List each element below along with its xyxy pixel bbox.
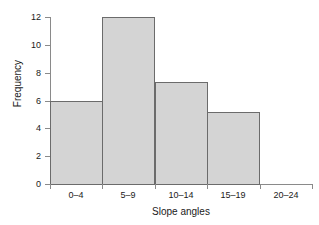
x-tick-label: 20–24 — [260, 191, 312, 200]
bar — [102, 17, 155, 185]
x-tick-mark — [260, 184, 261, 189]
x-tick-label: 0–4 — [50, 191, 102, 200]
x-tick-mark — [207, 184, 208, 189]
bar — [50, 101, 103, 185]
x-tick-mark — [155, 184, 156, 189]
x-tick-label: 10–14 — [155, 191, 207, 200]
bar — [155, 82, 208, 185]
plot-area: 024681012 0–45–910–1415–1920–24 Frequenc… — [0, 0, 319, 225]
y-tick-mark — [45, 45, 50, 46]
x-tick-mark — [50, 184, 51, 189]
x-tick-mark — [102, 184, 103, 189]
x-tick-label: 5–9 — [102, 191, 154, 200]
y-tick-label: 2 — [1, 152, 41, 161]
x-axis-title: Slope angles — [50, 206, 312, 217]
y-axis-title: Frequency — [12, 39, 23, 129]
y-tick-label: 0 — [1, 180, 41, 189]
x-tick-mark — [312, 184, 313, 189]
histogram-chart: 024681012 0–45–910–1415–1920–24 Frequenc… — [0, 0, 319, 225]
bar — [207, 112, 260, 185]
y-tick-mark — [45, 17, 50, 18]
y-tick-label: 12 — [1, 13, 41, 22]
y-tick-mark — [45, 73, 50, 74]
x-tick-label: 15–19 — [207, 191, 259, 200]
